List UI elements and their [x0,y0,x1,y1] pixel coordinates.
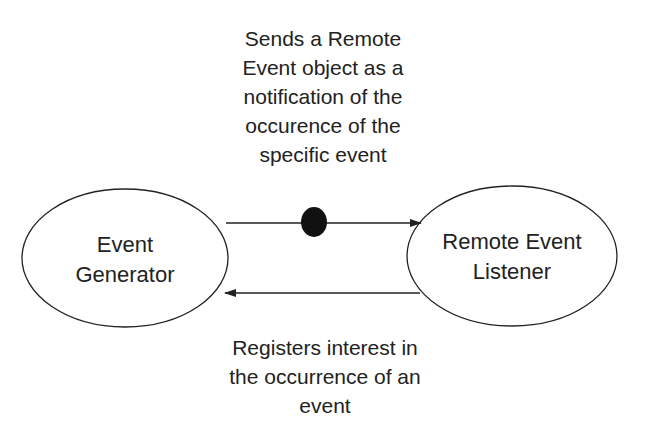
event-object-dot [301,207,327,237]
remote-event-listener-label: Remote Event Listener [417,227,607,287]
event-generator-label: Event Generator [45,230,205,290]
register-edge-label: Registers interest in the occurrence of … [190,333,460,420]
notify-edge-label: Sends a Remote Event object as a notific… [208,24,438,169]
